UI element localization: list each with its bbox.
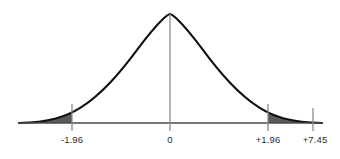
tick-label-upper-critical: +1.96: [256, 135, 281, 145]
tick-label-lower-critical: -1.96: [61, 135, 83, 145]
right-rejection-region: [170, 14, 322, 123]
left-rejection-region: [19, 14, 170, 123]
normal-distribution-figure: -1.96 0 +1.96 +7.45: [0, 0, 340, 159]
tick-label-test-statistic: +7.45: [303, 135, 328, 145]
tick-label-center: 0: [167, 135, 172, 145]
